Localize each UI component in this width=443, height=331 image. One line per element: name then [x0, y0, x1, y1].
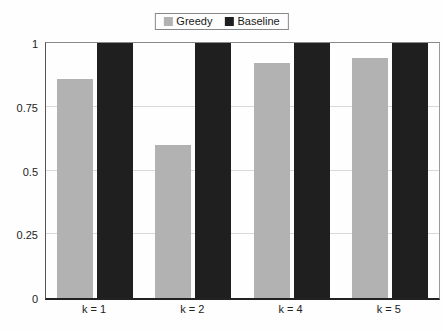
- x-axis: k = 1k = 2k = 4k = 5: [45, 303, 440, 319]
- legend-item-greedy: Greedy: [163, 16, 212, 27]
- bar-baseline-1: [97, 43, 133, 298]
- ytick-label-0.5: 0.5: [23, 166, 38, 178]
- ytick-label-0: 0: [32, 293, 38, 305]
- legend-swatch-baseline: [224, 17, 233, 26]
- bar-greedy-3: [254, 63, 290, 298]
- legend-swatch-greedy: [163, 17, 172, 26]
- bar-greedy-4: [352, 58, 388, 298]
- plot-area: [45, 42, 440, 300]
- legend-label-baseline: Baseline: [237, 16, 279, 27]
- ytick-label-1: 1: [32, 38, 38, 50]
- bar-chart-figure: GreedyBaseline 00.250.50.751 k = 1k = 2k…: [0, 0, 443, 331]
- bar-greedy-1: [57, 79, 93, 298]
- bar-baseline-3: [294, 43, 330, 298]
- y-axis: 00.250.50.751: [0, 42, 40, 300]
- bar-baseline-4: [392, 43, 428, 298]
- legend-label-greedy: Greedy: [176, 16, 212, 27]
- xtick-label-4: k = 5: [377, 303, 401, 316]
- chart-legend: GreedyBaseline: [154, 13, 288, 30]
- bar-greedy-2: [155, 145, 191, 298]
- ytick-label-0.25: 0.25: [17, 229, 38, 241]
- bar-baseline-2: [195, 43, 231, 298]
- xtick-label-2: k = 2: [180, 303, 204, 316]
- ytick-label-0.75: 0.75: [17, 102, 38, 114]
- xtick-label-3: k = 4: [279, 303, 303, 316]
- legend-item-baseline: Baseline: [224, 16, 279, 27]
- xtick-label-1: k = 1: [82, 303, 106, 316]
